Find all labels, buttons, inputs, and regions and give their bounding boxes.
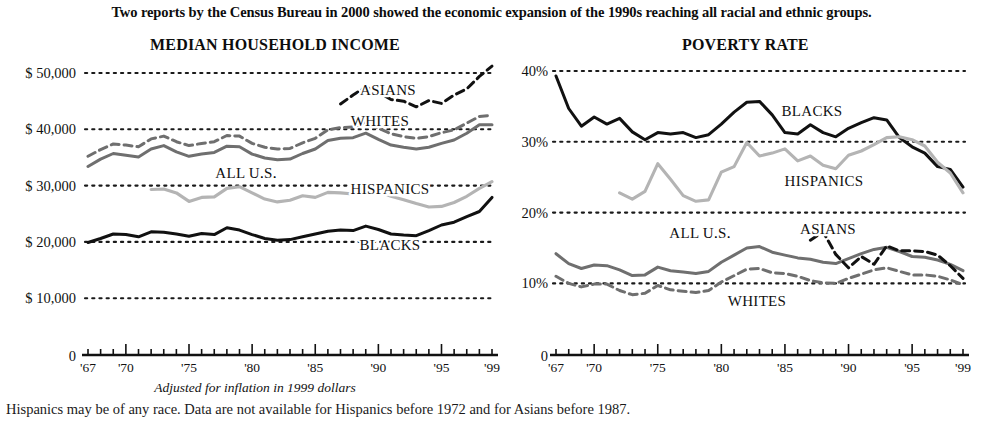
x-tick-label: '75 (650, 360, 666, 375)
x-tick-label: '85 (307, 360, 323, 375)
x-tick-label: '95 (434, 360, 450, 375)
x-tick-label: '99 (484, 360, 500, 375)
series-label-hispanics: HISPANICS (351, 181, 430, 197)
series-line-blacks (88, 197, 492, 242)
x-tick-label: '70 (586, 360, 602, 375)
x-tick-label: '95 (904, 360, 920, 375)
x-tick-label: '75 (181, 360, 197, 375)
x-tick-label: '90 (841, 360, 857, 375)
y-tick-label: 10% (521, 275, 548, 291)
inflation-note: Adjusted for inflation in 1999 dollars (0, 380, 510, 396)
series-line-allus (88, 125, 492, 167)
x-tick-label: '90 (370, 360, 386, 375)
charts-canvas: $ 50,000$ 40,000$ 30,000$ 20,000$ 10,000… (0, 0, 983, 427)
series-label-allus: ALL U.S. (215, 165, 276, 181)
y-tick-label: 20% (521, 205, 548, 221)
y-tick-label: $ 40,000 (25, 121, 76, 137)
y-tick-label: $ 30,000 (25, 178, 76, 194)
y-tick-label: $ 50,000 (25, 65, 76, 81)
x-tick-label: '80 (244, 360, 260, 375)
y-tick-label: 30% (521, 134, 548, 150)
y-tick-label: 0 (541, 348, 548, 364)
infographic-root: Two reports by the Census Bureau in 2000… (0, 0, 983, 427)
x-tick-label: '67 (548, 360, 564, 375)
series-line-blacks (556, 76, 963, 187)
series-label-asians: ASIANS (360, 82, 416, 98)
x-tick-label: '80 (713, 360, 729, 375)
y-tick-label: $ 10,000 (25, 290, 76, 306)
x-tick-label: '85 (777, 360, 793, 375)
y-tick-label: 40% (521, 63, 548, 79)
x-tick-label: '70 (118, 360, 134, 375)
footnote-text: Hispanics may be of any race. Data are n… (6, 401, 630, 418)
series-label-whites: WHITES (351, 113, 409, 129)
x-tick-label: '99 (955, 360, 971, 375)
y-tick-label: $ 20,000 (25, 234, 76, 250)
series-label-asians: ASIANS (800, 221, 856, 237)
series-label-whites: WHITES (728, 293, 786, 309)
series-label-blacks: BLACKS (782, 103, 843, 119)
series-line-whites (556, 268, 963, 295)
series-label-hispanics: HISPANICS (785, 173, 864, 189)
series-label-blacks: BLACKS (360, 237, 421, 253)
series-line-asians (810, 232, 963, 279)
series-label-allus: ALL U.S. (669, 225, 730, 241)
x-tick-label: '67 (80, 360, 96, 375)
y-tick-label: 0 (69, 348, 76, 364)
